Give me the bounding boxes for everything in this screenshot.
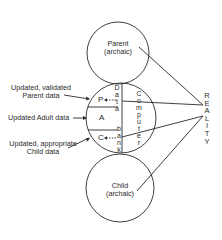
zone-a: A [99,114,104,122]
zone-c: C [98,134,104,142]
zone-p: P [98,96,103,104]
data-label: D a t a [113,84,121,112]
arrowhead-p [104,98,107,101]
child-label-sub: (archaic) [100,190,140,198]
reality-label: R E A L I T Y [203,92,211,145]
child-data-label: Updated, appropriate Child data [6,140,80,156]
child-label: Child (archaic) [100,182,140,198]
parent-label: Parent (archaic) [98,40,138,56]
parent-data-line2: Parent data [6,92,76,100]
bank-label: b a n k [115,125,123,153]
child-data-line2: Child data [6,148,80,156]
arrowhead-c [104,136,107,139]
arrowhead-parent-data [86,97,90,101]
parent-data-label: Updated, validated Parent data [6,84,76,100]
adult-data-label: Updated Adult data [8,114,69,122]
parent-label-sub: (archaic) [98,48,138,56]
computer-label: C o m p u t e r [135,90,143,146]
reality-line-child [137,116,203,191]
